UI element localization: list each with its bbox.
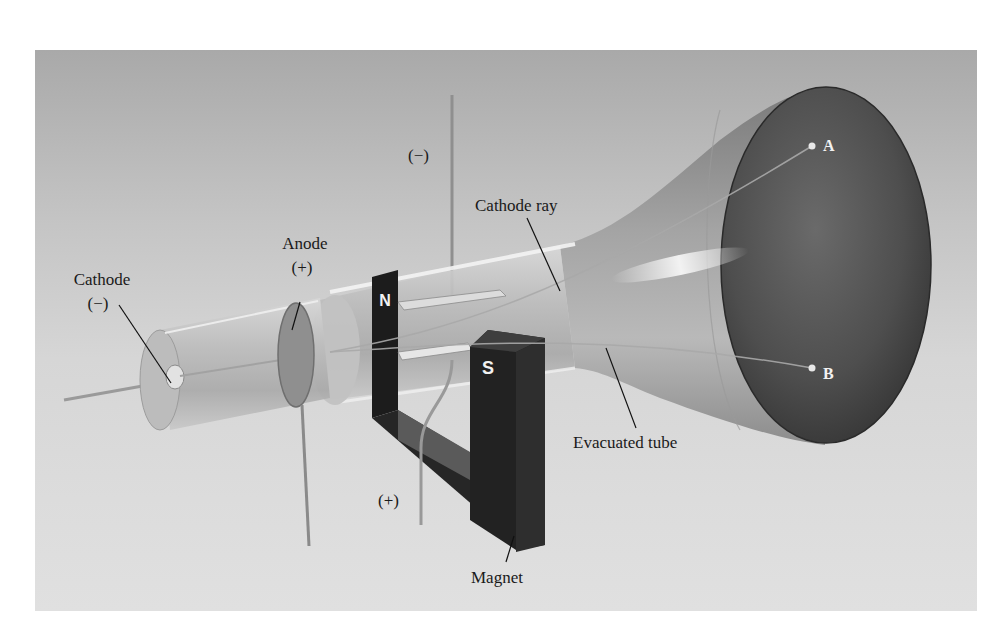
magnet-label: Magnet [471, 569, 523, 586]
anode-label: Anode [270, 235, 340, 252]
crt-illustration: N S [35, 50, 977, 611]
cathode-ray-label: Cathode ray [475, 197, 558, 214]
bottom-plate-sign-label: (+) [378, 492, 399, 509]
anode-sign-label: (+) [282, 259, 322, 276]
diagram-frame: N S [35, 50, 977, 611]
cathode-sign-label: (−) [78, 295, 118, 312]
cathode-label: Cathode [62, 271, 142, 288]
top-plate-sign-label: (−) [408, 147, 429, 164]
point-b-label: B [823, 366, 834, 382]
magnet-north-letter: N [379, 292, 391, 309]
magnet-south-letter: S [482, 358, 494, 378]
point-a-label: A [823, 138, 835, 154]
evacuated-tube-label: Evacuated tube [573, 434, 677, 451]
